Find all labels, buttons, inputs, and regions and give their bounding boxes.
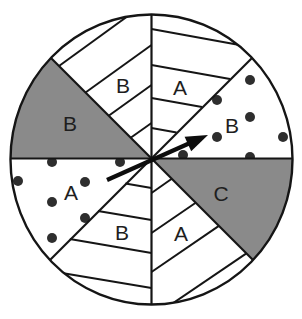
sector-label-3: B: [63, 112, 77, 135]
sector-label-6: A: [174, 222, 188, 245]
sector-label-0: B: [225, 114, 239, 137]
sector-label-5: B: [115, 221, 129, 244]
spinner-diagram: B A B B A B A C: [0, 0, 302, 319]
sector-label-4: A: [64, 181, 78, 204]
sector-label-1: A: [173, 76, 187, 99]
sector-label-7: C: [213, 182, 228, 205]
sector-label-2: B: [116, 74, 130, 97]
